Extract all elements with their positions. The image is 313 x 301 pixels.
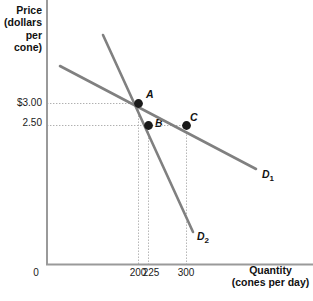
supply-demand-chart: Price(dollarspercone) Quantity(cones per… xyxy=(0,0,313,301)
data-point-c xyxy=(182,121,191,130)
axes xyxy=(46,0,313,265)
plot-area xyxy=(0,0,313,301)
data-point-b xyxy=(144,121,153,130)
guide-lines xyxy=(47,104,187,265)
data-point-a xyxy=(134,99,143,108)
demand-curve-d2 xyxy=(103,35,193,232)
